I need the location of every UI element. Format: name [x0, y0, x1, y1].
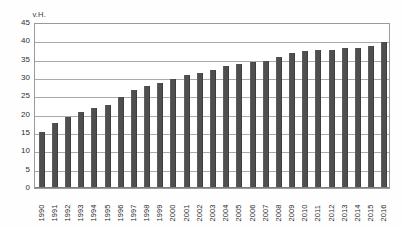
- x-tick-2014: 2014: [352, 190, 362, 226]
- bar-slot: [378, 24, 391, 187]
- x-tick-label: 2015: [366, 196, 375, 222]
- bar-slot: [193, 24, 206, 187]
- x-tick-2006: 2006: [247, 190, 257, 226]
- x-tick-label: 1999: [155, 196, 164, 222]
- bar-slot: [299, 24, 312, 187]
- bar-2004: [223, 66, 229, 187]
- x-tick-1992: 1992: [62, 190, 72, 226]
- x-tick-label: 2004: [221, 196, 230, 222]
- x-tick-2012: 2012: [326, 190, 336, 226]
- x-tick-label: 2009: [287, 196, 296, 222]
- y-tick-15: 15: [4, 129, 30, 137]
- x-tick-2007: 2007: [260, 190, 270, 226]
- bar-2007: [263, 61, 269, 188]
- bar-1995: [105, 105, 111, 188]
- bar-slot: [351, 24, 364, 187]
- bar-2016: [381, 42, 387, 187]
- bar-slot: [167, 24, 180, 187]
- x-axis-line: [35, 187, 389, 188]
- bar-2011: [315, 50, 321, 188]
- x-tick-2009: 2009: [286, 190, 296, 226]
- x-tick-label: 2007: [260, 196, 269, 222]
- x-tick-label: 2014: [353, 196, 362, 222]
- x-tick-label: 2011: [313, 196, 322, 222]
- y-tick-0: 0: [4, 184, 30, 192]
- x-tick-label: 2016: [379, 196, 388, 222]
- x-tick-label: 2012: [326, 196, 335, 222]
- bar-1992: [65, 117, 71, 187]
- bar-1998: [144, 86, 150, 187]
- bar-slot: [286, 24, 299, 187]
- bar-slot: [75, 24, 88, 187]
- bar-2014: [355, 48, 361, 187]
- bar-slot: [233, 24, 246, 187]
- bar-1991: [52, 123, 58, 187]
- x-tick-2011: 2011: [312, 190, 322, 226]
- x-tick-label: 1991: [49, 196, 58, 222]
- bar-2006: [250, 62, 256, 187]
- x-tick-1991: 1991: [49, 190, 59, 226]
- x-tick-label: 1998: [142, 196, 151, 222]
- x-tick-2016: 2016: [378, 190, 388, 226]
- y-tick-5: 5: [4, 166, 30, 174]
- bar-slot: [220, 24, 233, 187]
- bar-slot: [88, 24, 101, 187]
- bar-slot: [338, 24, 351, 187]
- bar-slot: [154, 24, 167, 187]
- x-tick-1994: 1994: [88, 190, 98, 226]
- bar-chart: v.H. 454035302520151050 1990199119921993…: [0, 0, 403, 227]
- x-tick-2013: 2013: [339, 190, 349, 226]
- y-tick-35: 35: [4, 56, 30, 64]
- x-tick-1990: 1990: [36, 190, 46, 226]
- bar-2000: [170, 79, 176, 187]
- bar-2010: [302, 51, 308, 187]
- bar-1996: [118, 97, 124, 187]
- x-tick-1998: 1998: [141, 190, 151, 226]
- x-tick-label: 1997: [128, 196, 137, 222]
- x-tick-label: 2001: [181, 196, 190, 222]
- bar-slot: [180, 24, 193, 187]
- x-tick-label: 2010: [300, 196, 309, 222]
- bar-slot: [272, 24, 285, 187]
- bar-slot: [114, 24, 127, 187]
- bar-series: [35, 24, 389, 187]
- bar-2001: [184, 75, 190, 187]
- x-tick-label: 1996: [115, 196, 124, 222]
- bar-slot: [35, 24, 48, 187]
- bar-1990: [39, 132, 45, 187]
- x-tick-2015: 2015: [365, 190, 375, 226]
- bar-slot: [101, 24, 114, 187]
- x-tick-2005: 2005: [233, 190, 243, 226]
- x-tick-label: 2013: [339, 196, 348, 222]
- bar-slot: [127, 24, 140, 187]
- x-tick-label: 2005: [234, 196, 243, 222]
- bar-slot: [246, 24, 259, 187]
- x-tick-label: 1992: [62, 196, 71, 222]
- bar-slot: [206, 24, 219, 187]
- y-tick-45: 45: [4, 19, 30, 27]
- x-tick-label: 2008: [273, 196, 282, 222]
- bar-2003: [210, 70, 216, 187]
- bar-2009: [289, 53, 295, 187]
- x-tick-1996: 1996: [115, 190, 125, 226]
- x-tick-label: 2003: [208, 196, 217, 222]
- y-tick-20: 20: [4, 111, 30, 119]
- bar-1994: [91, 108, 97, 187]
- x-tick-1999: 1999: [154, 190, 164, 226]
- bar-2008: [276, 57, 282, 187]
- bar-2013: [342, 48, 348, 187]
- bar-2005: [236, 64, 242, 187]
- y-tick-30: 30: [4, 74, 30, 82]
- bar-1993: [78, 112, 84, 187]
- x-tick-2001: 2001: [181, 190, 191, 226]
- x-tick-label: 1995: [102, 196, 111, 222]
- x-tick-1997: 1997: [128, 190, 138, 226]
- bar-1999: [157, 83, 163, 188]
- bar-slot: [48, 24, 61, 187]
- x-tick-label: 1993: [76, 196, 85, 222]
- bar-slot: [365, 24, 378, 187]
- x-tick-label: 1994: [89, 196, 98, 222]
- x-tick-2002: 2002: [194, 190, 204, 226]
- bar-2015: [368, 46, 374, 187]
- bar-slot: [325, 24, 338, 187]
